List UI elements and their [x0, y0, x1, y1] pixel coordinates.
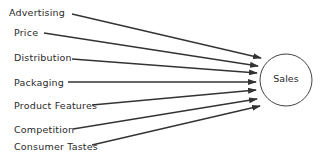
factor-label-distribution: Distribution	[14, 52, 72, 63]
factor-label-packaging: Packaging	[14, 77, 64, 88]
factor-label-price: Price	[14, 27, 38, 38]
sales-node-label: Sales	[260, 73, 312, 84]
arrow-competition	[73, 99, 257, 129]
factor-label-consumer-tastes: Consumer Tastes	[14, 141, 98, 152]
factor-label-advertising: Advertising	[9, 7, 65, 18]
factor-label-competition: Competition	[14, 124, 74, 135]
factor-label-product-features: Product Features	[14, 100, 97, 111]
